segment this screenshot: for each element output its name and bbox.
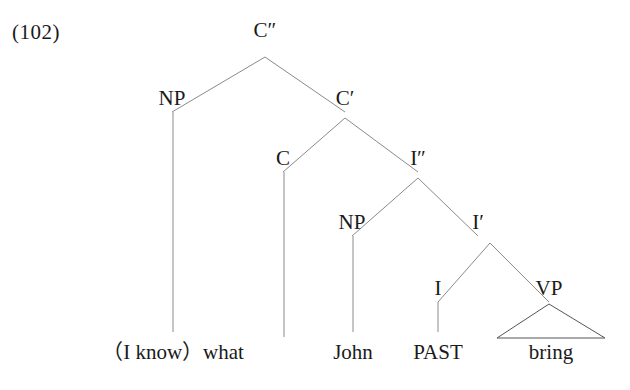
branch-imax-np2-ibar [352,178,478,236]
example-number: (102) [12,22,60,43]
node-c-head: C [276,148,290,169]
node-cmax: C″ [254,20,277,41]
stem-lines [173,112,438,337]
node-vp: VP [536,278,563,299]
vp-triangle [497,304,605,338]
node-imax: I″ [410,148,426,169]
terminal-john: John [333,342,373,363]
triangle-bring [497,304,605,338]
syntax-tree-diagram: (102) C″ NP C′ C I″ NP I′ I VP （I know）w… [0,0,630,390]
node-i-head: I [435,278,442,299]
branch-lines [172,57,549,302]
terminal-bring: bring [529,342,573,363]
node-cbar: C′ [336,88,355,109]
node-np-specifier: NP [159,88,186,109]
node-np-subject: NP [339,212,366,233]
tree-lines-layer [0,0,630,390]
branch-cmax-np1-cbar [172,57,345,112]
branch-ibar-i-vp [438,243,549,302]
terminal-past: PAST [413,342,462,363]
branch-cbar-c-imax [283,118,418,172]
terminal-what: （I know）what [102,342,244,363]
node-ibar: I′ [472,212,484,233]
